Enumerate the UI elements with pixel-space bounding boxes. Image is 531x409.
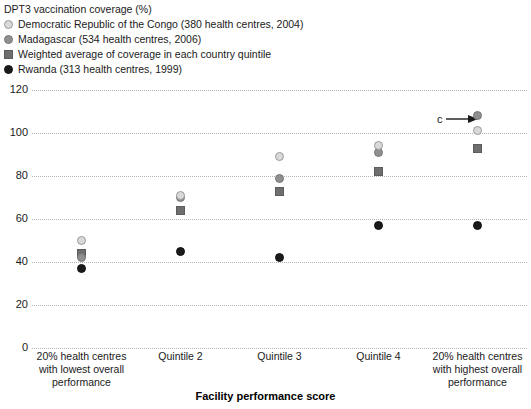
legend-marker-circle-mid-icon [4,35,13,44]
data-point [374,167,383,176]
plot-area [32,90,527,348]
data-point [275,187,284,196]
legend-item-weighted-average: Weighted average of coverage in each cou… [4,47,424,61]
data-point [374,221,383,230]
y-tick-label: 60 [2,213,28,224]
x-tick-label: Quintile 3 [230,350,329,363]
data-point [275,152,284,161]
annotation-c: c [437,113,478,125]
y-tick-label: 80 [2,170,28,181]
y-tick-label: 120 [2,84,28,95]
legend-label-rwanda: Rwanda (313 health centres, 1999) [18,62,182,76]
annotation-label: c [437,113,443,125]
x-tick-label: Quintile 2 [131,350,230,363]
x-tick-label: 20% health centres with lowest overall p… [32,350,131,389]
y-tick-label: 0 [2,342,28,353]
x-axis-title: Facility performance score [0,390,531,402]
legend-label-madagascar: Madagascar (534 health centres, 2006) [18,32,201,46]
data-point [77,236,86,245]
legend-marker-circle-light-icon [4,20,13,29]
y-tick-label: 100 [2,127,28,138]
data-point [473,221,482,230]
gridline [32,305,527,306]
data-point [77,253,86,262]
data-point [473,144,482,153]
gridline [32,348,527,349]
legend-marker-circle-black-icon [4,65,13,74]
legend-label-weighted-average: Weighted average of coverage in each cou… [18,47,271,61]
y-tick-label: 20 [2,299,28,310]
data-point [176,247,185,256]
data-point [77,264,86,273]
legend-title: DPT3 vaccination coverage (%) [4,2,424,16]
data-point [275,253,284,262]
gridline [32,90,527,91]
gridline [32,133,527,134]
legend-item-drc: Democratic Republic of the Congo (380 he… [4,17,424,31]
data-point [275,174,284,183]
gridline [32,219,527,220]
data-point [473,111,482,120]
x-axis: 20% health centres with lowest overall p… [32,350,527,394]
data-point [176,191,185,200]
y-tick-label: 40 [2,256,28,267]
y-axis: 020406080100120 [0,90,28,348]
x-tick-label: 20% health centres with highest overall … [428,350,527,389]
data-point [176,206,185,215]
legend-marker-square-dark-icon [4,50,13,59]
gridline [32,262,527,263]
legend: DPT3 vaccination coverage (%) Democratic… [4,2,424,77]
legend-item-madagascar: Madagascar (534 health centres, 2006) [4,32,424,46]
x-tick-label: Quintile 4 [329,350,428,363]
legend-label-drc: Democratic Republic of the Congo (380 he… [18,17,303,31]
legend-item-rwanda: Rwanda (313 health centres, 1999) [4,62,424,76]
